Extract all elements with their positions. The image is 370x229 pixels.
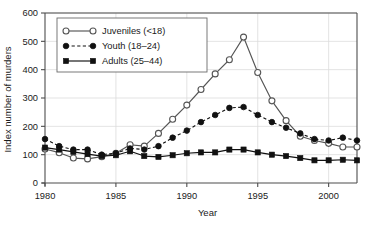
- data-point: [155, 130, 161, 136]
- chart-legend: Juveniles (<18)Youth (18–24)Adults (25–4…: [57, 18, 207, 72]
- data-point: [241, 147, 246, 152]
- data-point: [99, 153, 104, 158]
- data-point: [354, 138, 360, 144]
- y-tick-label: 600: [22, 8, 38, 18]
- data-point: [156, 143, 162, 149]
- y-axis-ticks: 0100200300400500600: [22, 8, 45, 188]
- legend-item-label: Adults (25–44): [102, 56, 162, 66]
- data-point: [354, 158, 359, 163]
- data-point: [198, 150, 203, 155]
- x-tick-label: 2000: [318, 191, 339, 201]
- data-point: [42, 136, 48, 142]
- data-point: [63, 43, 69, 49]
- series-youth-18-24: [42, 104, 360, 157]
- data-point: [241, 34, 247, 40]
- data-point: [63, 58, 68, 63]
- series-line: [45, 107, 357, 155]
- data-point: [340, 144, 346, 150]
- data-point: [354, 144, 360, 150]
- data-point: [184, 151, 189, 156]
- data-point: [184, 128, 190, 134]
- data-point: [227, 147, 232, 152]
- data-point: [141, 147, 147, 153]
- data-point: [269, 119, 275, 125]
- data-point: [170, 116, 176, 122]
- data-point: [184, 102, 190, 108]
- data-point: [340, 135, 346, 141]
- data-point: [212, 112, 218, 118]
- data-point: [71, 149, 76, 154]
- data-point: [70, 155, 76, 161]
- x-tick-label: 1995: [247, 191, 268, 201]
- data-point: [198, 87, 204, 93]
- legend-item-label: Juveniles (<18): [102, 26, 165, 36]
- data-point: [213, 150, 218, 155]
- y-tick-label: 200: [22, 122, 38, 132]
- data-point: [42, 145, 47, 150]
- data-point: [255, 112, 261, 118]
- data-point: [226, 57, 232, 63]
- plot-area: 0100200300400500600 19801985199019952000…: [0, 0, 370, 229]
- y-tick-label: 100: [22, 150, 38, 160]
- x-tick-label: 1990: [176, 191, 197, 201]
- data-point: [212, 71, 218, 77]
- y-tick-label: 500: [22, 37, 38, 47]
- data-point: [142, 153, 147, 158]
- x-axis-ticks: 19801985199019952000: [35, 183, 339, 201]
- data-point: [90, 28, 96, 34]
- data-point: [170, 135, 176, 141]
- data-point: [255, 70, 261, 76]
- data-point: [340, 157, 345, 162]
- data-point: [156, 154, 161, 159]
- data-point: [63, 28, 69, 34]
- data-point: [170, 153, 175, 158]
- data-point: [127, 149, 132, 154]
- data-point: [241, 104, 247, 110]
- y-tick-label: 0: [33, 178, 38, 188]
- data-point: [90, 58, 95, 63]
- data-point: [198, 119, 204, 125]
- data-point: [57, 147, 62, 152]
- data-point: [85, 152, 90, 157]
- y-tick-label: 400: [22, 65, 38, 75]
- y-tick-label: 300: [22, 93, 38, 103]
- data-point: [312, 136, 318, 142]
- data-point: [269, 152, 274, 157]
- data-point: [113, 153, 118, 158]
- data-point: [255, 150, 260, 155]
- data-point: [269, 98, 275, 104]
- data-point: [297, 131, 303, 137]
- data-point: [326, 138, 332, 144]
- data-point: [283, 153, 288, 158]
- data-point: [283, 118, 289, 124]
- data-point: [283, 125, 289, 131]
- data-point: [326, 158, 331, 163]
- data-point: [312, 158, 317, 163]
- chart-figure: Index number of murders Year 01002003004…: [0, 0, 370, 229]
- data-point: [298, 155, 303, 160]
- x-tick-label: 1985: [106, 191, 127, 201]
- legend-item-label: Youth (18–24): [102, 41, 160, 51]
- data-point: [90, 43, 96, 49]
- data-point: [227, 105, 233, 111]
- x-tick-label: 1980: [35, 191, 56, 201]
